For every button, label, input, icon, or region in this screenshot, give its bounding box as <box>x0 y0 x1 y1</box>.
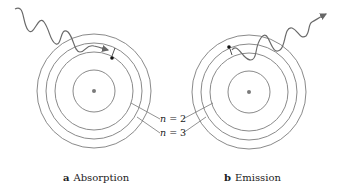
electron-jump-arrow <box>112 48 115 56</box>
label-n3-eq: = 3 <box>166 127 186 138</box>
label-n3: n = 3 <box>160 127 186 138</box>
electron <box>110 56 114 60</box>
nucleus <box>247 90 251 94</box>
electron <box>227 45 231 49</box>
caption-absorption: aAbsorption <box>63 172 129 183</box>
label-n2-eq: = 2 <box>166 113 186 124</box>
nucleus <box>92 89 96 93</box>
bohr-atom-diagram <box>0 0 340 191</box>
label-n2: n = 2 <box>160 113 186 124</box>
leader-n3 <box>137 117 160 133</box>
atom-emission <box>183 14 326 149</box>
electron-jump-arrow <box>230 49 232 55</box>
caption-title-b: Emission <box>235 172 281 183</box>
caption-letter-a: a <box>63 172 69 183</box>
caption-letter-b: b <box>224 172 231 183</box>
atom-absorption <box>15 8 160 148</box>
caption-title-a: Absorption <box>73 172 129 183</box>
leader-n2 <box>131 103 160 119</box>
photon-wave-incoming <box>15 8 108 52</box>
caption-emission: bEmission <box>224 172 281 183</box>
